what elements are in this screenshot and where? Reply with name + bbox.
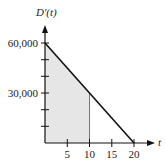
chart: D'(t) t 60,000 30,000 5 10 15 20 — [0, 0, 166, 168]
x-tick-label-15: 15 — [106, 148, 118, 160]
y-axis-arrow-icon — [42, 25, 48, 33]
y-axis-label: D'(t) — [35, 6, 57, 19]
x-tick-label-10: 10 — [84, 148, 96, 160]
shaded-area — [45, 43, 90, 143]
y-tick-label-60000: 60,000 — [8, 37, 39, 49]
y-tick-label-30000: 30,000 — [8, 87, 39, 99]
x-tick-label-5: 5 — [65, 148, 71, 160]
x-axis-arrow-icon — [147, 140, 155, 146]
x-tick-label-20: 20 — [129, 148, 141, 160]
x-axis-label: t — [158, 136, 162, 148]
